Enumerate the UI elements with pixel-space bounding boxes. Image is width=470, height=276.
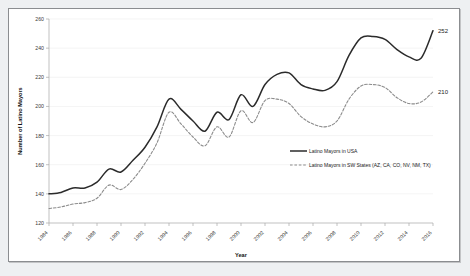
chart-frame: 1201401601802002202402601984198619881990… bbox=[8, 8, 460, 262]
x-tick-label: 2014 bbox=[396, 229, 408, 241]
legend-label-2: Latino Mayors in SW States (AZ, CA, CO, … bbox=[309, 162, 431, 168]
series-line-2 bbox=[49, 84, 433, 208]
x-tick-label: 2002 bbox=[252, 229, 264, 241]
y-tick-label: 260 bbox=[35, 16, 44, 22]
x-tick-label: 1998 bbox=[204, 229, 216, 241]
x-tick-label: 1988 bbox=[84, 229, 96, 241]
x-tick-label: 1986 bbox=[60, 229, 72, 241]
y-tick-label: 120 bbox=[35, 220, 44, 226]
x-tick-label: 2004 bbox=[276, 229, 288, 241]
x-axis-title: Year bbox=[235, 252, 248, 258]
series-line-1 bbox=[49, 31, 433, 194]
x-tick-label: 2012 bbox=[372, 229, 384, 241]
x-tick-label: 2010 bbox=[348, 229, 360, 241]
x-tick-label: 2006 bbox=[300, 229, 312, 241]
x-tick-label: 1992 bbox=[132, 229, 144, 241]
y-tick-label: 240 bbox=[35, 45, 44, 51]
y-axis-title: Number of Latino Mayors bbox=[17, 87, 23, 154]
y-tick-label: 200 bbox=[35, 103, 44, 109]
series-end-label-2: 210 bbox=[438, 89, 449, 95]
y-tick-label: 140 bbox=[35, 191, 44, 197]
chart-plot-container: 1201401601802002202402601984198619881990… bbox=[9, 9, 461, 263]
series-end-label-1: 252 bbox=[438, 28, 449, 34]
legend-label-1: Latino Mayors in USA bbox=[309, 148, 358, 154]
x-tick-label: 2008 bbox=[324, 229, 336, 241]
x-tick-label: 1996 bbox=[180, 229, 192, 241]
line-chart-svg: 1201401601802002202402601984198619881990… bbox=[9, 9, 461, 263]
y-tick-label: 180 bbox=[35, 133, 44, 139]
x-tick-label: 2000 bbox=[228, 229, 240, 241]
y-tick-label: 220 bbox=[35, 74, 44, 80]
x-tick-label: 1984 bbox=[36, 229, 48, 241]
x-tick-label: 2016 bbox=[420, 229, 432, 241]
x-tick-label: 1994 bbox=[156, 229, 168, 241]
x-tick-label: 1990 bbox=[108, 229, 120, 241]
y-tick-label: 160 bbox=[35, 162, 44, 168]
